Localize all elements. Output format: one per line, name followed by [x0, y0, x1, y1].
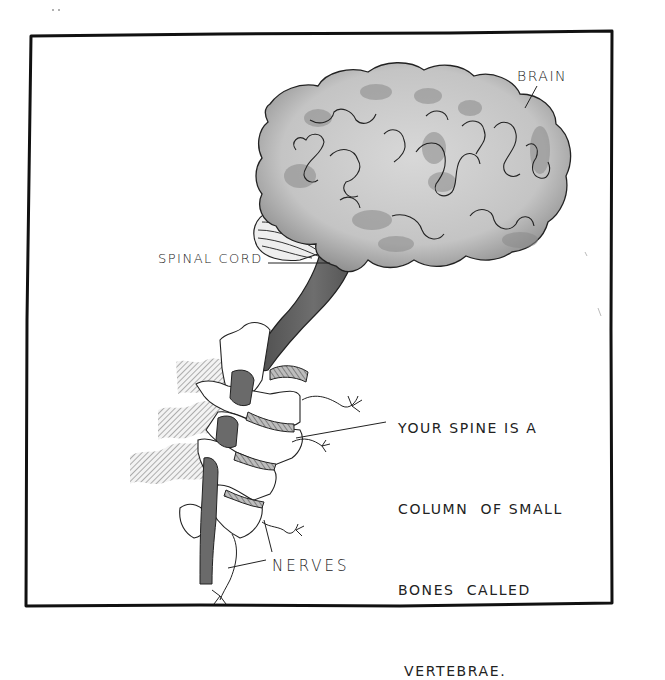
caption-line-2: COLUMN OF SMALL — [398, 496, 563, 523]
spinal-cord-label: SPINAL CORD — [158, 252, 263, 265]
nerves-label: NERVES — [272, 559, 350, 574]
caption-line-1: YOUR SPINE IS A — [398, 415, 563, 442]
nerves-leader-2 — [228, 560, 266, 568]
smudge-marks-right — [585, 252, 601, 316]
caption-line-3: BONES CALLED — [398, 577, 563, 604]
vertebrae-caption: YOUR SPINE IS A COLUMN OF SMALL BONES CA… — [398, 361, 563, 680]
smudge-marks — [52, 9, 60, 11]
brain-label: BRAIN — [517, 69, 567, 83]
caption-line-4: VERTEBRAE. — [398, 658, 563, 680]
vertebrae-leader — [296, 422, 386, 438]
brain — [256, 63, 571, 272]
